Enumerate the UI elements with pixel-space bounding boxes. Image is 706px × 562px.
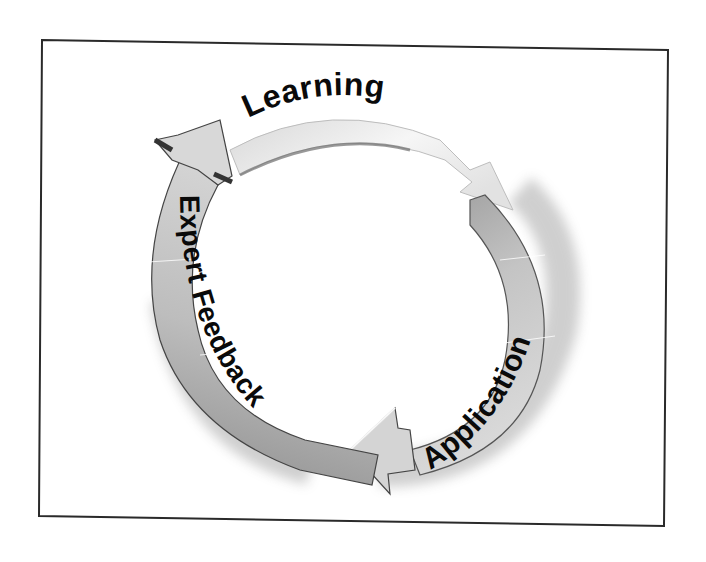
- learning-cycle-diagram: Learning Application Expert Feedback: [0, 0, 706, 562]
